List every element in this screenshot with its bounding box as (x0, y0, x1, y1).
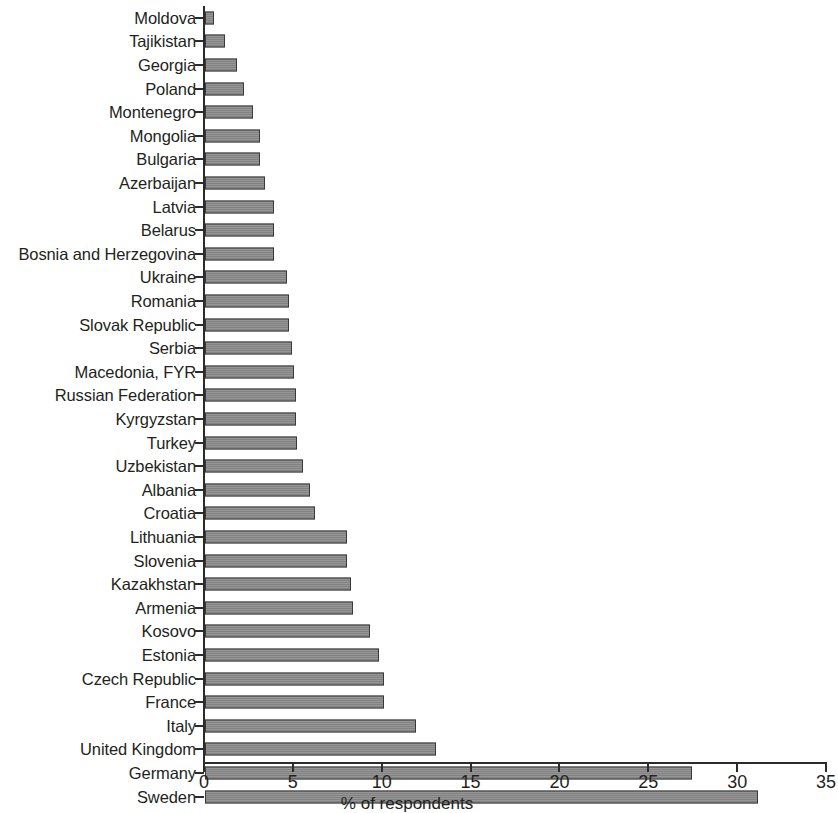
category-label: Kyrgyzstan (115, 411, 196, 428)
bar (205, 483, 310, 496)
x-axis-tick-label: 15 (461, 773, 481, 791)
bar (205, 743, 436, 756)
category-label: Croatia (144, 505, 197, 522)
bar (205, 412, 296, 425)
y-axis-tick (195, 748, 204, 750)
y-axis-tick (195, 324, 204, 326)
category-label: Czech Republic (82, 670, 196, 687)
bar (205, 601, 353, 614)
category-label: Estonia (142, 647, 196, 664)
bar (205, 224, 274, 237)
x-axis-tick (736, 762, 738, 772)
bar (205, 200, 274, 213)
bar-row: Latvia (0, 195, 838, 219)
bar-row: Bulgaria (0, 148, 838, 172)
category-label: Bosnia and Herzegovina (18, 246, 196, 263)
category-label: Latvia (153, 198, 196, 215)
y-axis-tick (195, 158, 204, 160)
x-axis-tick-label: 25 (638, 773, 658, 791)
bar-row: United Kingdom (0, 738, 838, 762)
category-label: Bulgaria (136, 151, 196, 168)
x-axis-tick (292, 762, 294, 772)
y-axis-tick (195, 607, 204, 609)
y-axis-tick (195, 229, 204, 231)
category-label: Tajikistan (129, 33, 196, 50)
plot-area: MoldovaTajikistanGeorgiaPolandMontenegro… (0, 0, 838, 762)
category-label: Moldova (134, 10, 196, 27)
category-label: Georgia (138, 57, 196, 74)
y-axis-tick (195, 394, 204, 396)
category-label: Uzbekistan (115, 458, 196, 475)
y-axis-tick (195, 347, 204, 349)
bar (205, 389, 296, 402)
bar-row: Croatia (0, 502, 838, 526)
category-label: Macedonia, FYR (75, 364, 197, 381)
category-label: Kosovo (142, 623, 196, 640)
category-label: Slovenia (134, 552, 197, 569)
x-axis: 05101520253035 % of respondents (0, 762, 838, 813)
bar-row: Belarus (0, 218, 838, 242)
bar (205, 342, 292, 355)
bar-row: Poland (0, 77, 838, 101)
x-axis-tick (558, 762, 560, 772)
x-axis-tick-label: 5 (288, 773, 298, 791)
bar-row: Russian Federation (0, 384, 838, 408)
bar (205, 507, 315, 520)
bar (205, 625, 370, 638)
y-axis-tick (195, 442, 204, 444)
category-label: Belarus (141, 222, 196, 239)
y-axis-tick (195, 701, 204, 703)
x-axis-line (204, 762, 826, 764)
x-axis-tick (825, 762, 827, 772)
y-axis-tick (195, 583, 204, 585)
category-label: Turkey (147, 434, 196, 451)
x-axis-tick (470, 762, 472, 772)
y-axis-tick (195, 418, 204, 420)
category-label: Ukraine (140, 269, 196, 286)
bar-row: France (0, 690, 838, 714)
y-axis-tick (195, 371, 204, 373)
bar-chart: MoldovaTajikistanGeorgiaPolandMontenegro… (0, 0, 838, 813)
category-label: Mongolia (130, 128, 196, 145)
bar (205, 153, 260, 166)
y-axis-tick (195, 206, 204, 208)
x-axis-tick-label: 0 (199, 773, 209, 791)
bar-row: Kyrgyzstan (0, 407, 838, 431)
bar (205, 58, 237, 71)
bar (205, 554, 347, 567)
y-axis-tick (195, 678, 204, 680)
bar-row: Czech Republic (0, 667, 838, 691)
y-axis-tick (195, 111, 204, 113)
y-axis-tick (195, 654, 204, 656)
x-axis-title-text: % of respondents (341, 795, 473, 812)
category-label: Italy (166, 718, 196, 735)
y-axis-tick (195, 135, 204, 137)
y-axis-tick (195, 536, 204, 538)
y-axis-tick (195, 300, 204, 302)
bar (205, 318, 289, 331)
x-axis-tick (647, 762, 649, 772)
y-axis-tick (195, 88, 204, 90)
bar (205, 271, 287, 284)
category-label: Poland (145, 80, 196, 97)
bar (205, 696, 384, 709)
bar-row: Macedonia, FYR (0, 360, 838, 384)
x-axis-tick-label: 30 (727, 773, 747, 791)
category-label: France (145, 694, 196, 711)
bar-row: Moldova (0, 6, 838, 30)
x-axis-tick-label: 10 (372, 773, 392, 791)
bar-row: Albania (0, 478, 838, 502)
x-axis-tick (203, 762, 205, 772)
y-axis-tick (195, 253, 204, 255)
y-axis-tick (195, 182, 204, 184)
bar (205, 176, 265, 189)
x-axis-tick (381, 762, 383, 772)
x-axis-tick-label: 35 (816, 773, 836, 791)
bar-row: Kosovo (0, 620, 838, 644)
bar-row: Serbia (0, 336, 838, 360)
bar (205, 11, 214, 24)
bar (205, 35, 225, 48)
bar-row: Estonia (0, 643, 838, 667)
bar (205, 247, 274, 260)
y-axis-tick (195, 630, 204, 632)
